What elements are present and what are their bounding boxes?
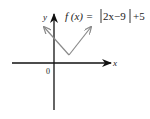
graph-right-arm [69, 27, 91, 55]
x-axis-label: x [112, 58, 117, 68]
y-axis-label: y [42, 12, 47, 22]
graph-figure: y x 0 f (x) = 2x−9 +5 [0, 0, 150, 119]
function-fx: f (x) = [65, 10, 93, 23]
graph-left-arm [44, 27, 69, 55]
function-inner: 2x−9 [103, 10, 126, 22]
function-tail: +5 [133, 10, 145, 22]
origin-label: 0 [46, 67, 50, 76]
